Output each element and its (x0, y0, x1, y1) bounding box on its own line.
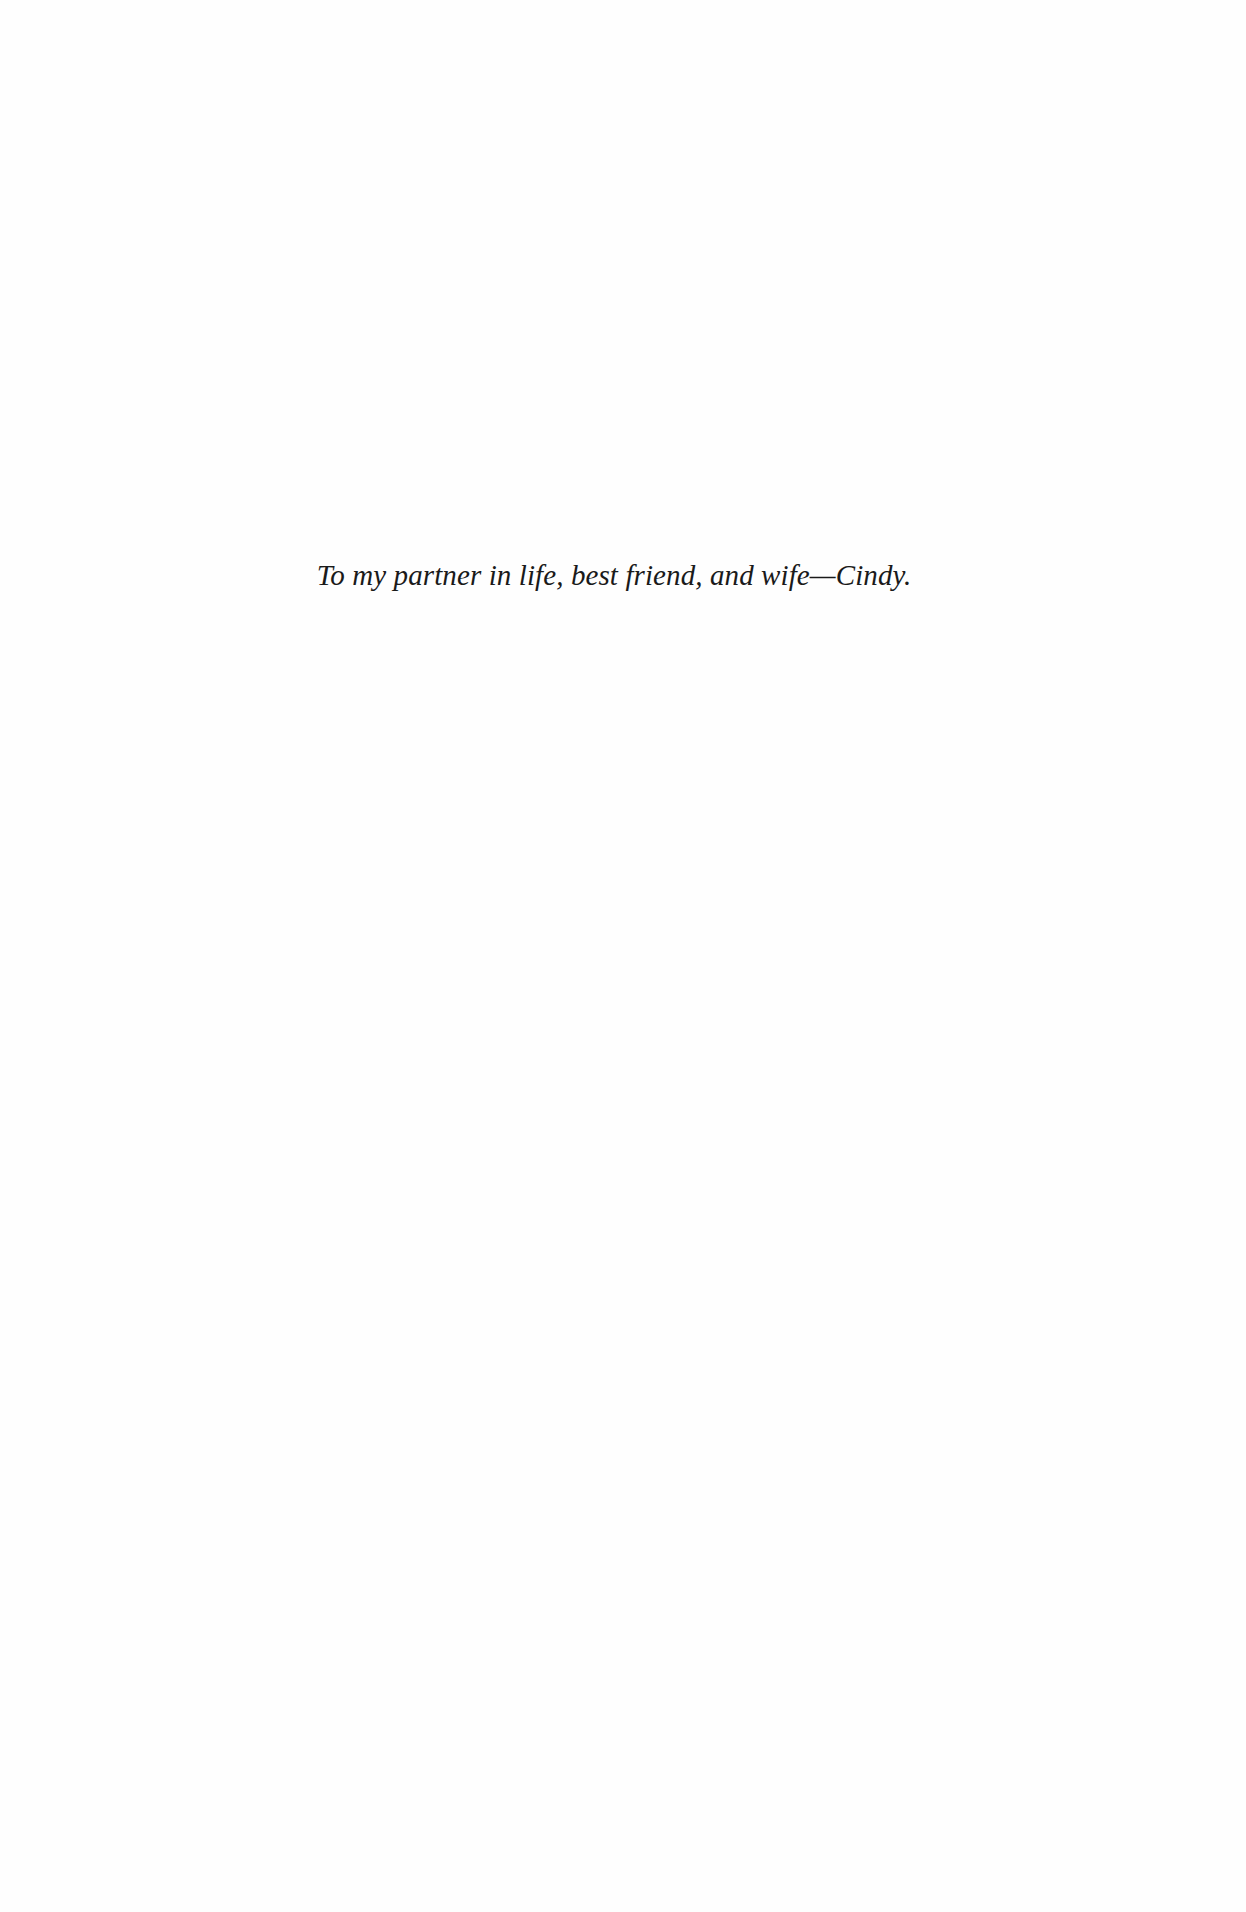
book-page: To my partner in life, best friend, and … (0, 0, 1246, 1912)
dedication-text: To my partner in life, best friend, and … (0, 555, 1228, 595)
